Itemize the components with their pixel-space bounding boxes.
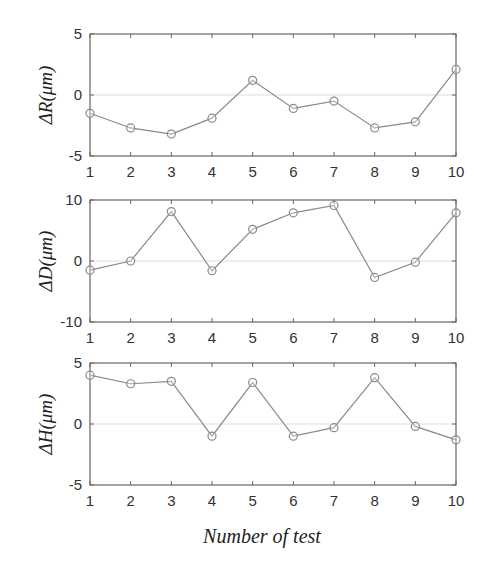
data-point-marker (208, 432, 216, 440)
data-point-marker (249, 76, 257, 84)
data-point-marker (371, 273, 379, 281)
x-tick-label: 6 (289, 492, 297, 509)
data-point-marker (86, 371, 94, 379)
x-tick-label: 3 (167, 163, 175, 180)
data-point-marker (127, 380, 135, 388)
y-tick-label: 0 (74, 415, 82, 432)
x-tick-label: 1 (86, 329, 94, 346)
data-point-marker (127, 124, 135, 132)
x-tick-label: 2 (126, 163, 134, 180)
x-tick-label: 4 (208, 329, 216, 346)
subplot-1: 1234567891050-5ΔR(μm) (35, 25, 464, 180)
data-line (90, 375, 456, 440)
data-point-marker (167, 130, 175, 138)
x-tick-label: 2 (126, 492, 134, 509)
x-tick-label: 9 (411, 163, 419, 180)
y-axis-label: ΔR(μm) (35, 66, 57, 126)
y-tick-label: 0 (74, 86, 82, 103)
x-tick-label: 10 (448, 492, 465, 509)
x-tick-label: 2 (126, 329, 134, 346)
x-tick-label: 8 (370, 329, 378, 346)
data-point-marker (289, 209, 297, 217)
x-tick-label: 10 (448, 329, 465, 346)
y-tick-label: -5 (69, 147, 82, 164)
data-point-marker (208, 114, 216, 122)
x-tick-label: 7 (330, 163, 338, 180)
x-tick-label: 5 (248, 329, 256, 346)
y-tick-label: -10 (60, 313, 82, 330)
x-tick-label: 10 (448, 163, 465, 180)
data-point-marker (411, 422, 419, 430)
figure: 1234567891050-5ΔR(μm)12345678910100-10ΔD… (0, 0, 496, 566)
x-tick-label: 7 (330, 492, 338, 509)
x-tick-label: 5 (248, 163, 256, 180)
x-tick-label: 7 (330, 329, 338, 346)
x-tick-label: 3 (167, 492, 175, 509)
subplot-2: 12345678910100-10ΔD(μm) (35, 191, 464, 346)
y-tick-label: 10 (65, 191, 82, 208)
x-tick-label: 6 (289, 329, 297, 346)
data-point-marker (452, 436, 460, 444)
data-point-marker (330, 97, 338, 105)
x-axis-title: Number of test (202, 525, 321, 548)
x-tick-label: 6 (289, 163, 297, 180)
x-tick-label: 1 (86, 163, 94, 180)
y-tick-label: 5 (74, 25, 82, 42)
y-axis-label: ΔH(μm) (35, 394, 57, 456)
data-point-marker (330, 201, 338, 209)
data-point-marker (86, 109, 94, 117)
x-tick-label: 4 (208, 163, 216, 180)
x-tick-label: 8 (370, 492, 378, 509)
x-tick-label: 4 (208, 492, 216, 509)
data-point-marker (371, 374, 379, 382)
data-point-marker (167, 377, 175, 385)
y-axis-label: ΔD(μm) (35, 231, 57, 293)
data-point-marker (371, 124, 379, 132)
data-line (90, 69, 456, 134)
data-point-marker (452, 65, 460, 73)
x-tick-label: 1 (86, 492, 94, 509)
data-point-marker (289, 432, 297, 440)
subplot-3: 1234567891050-5ΔH(μm) (35, 354, 464, 509)
data-point-marker (411, 258, 419, 266)
data-point-marker (411, 118, 419, 126)
y-tick-label: -5 (69, 476, 82, 493)
data-point-marker (86, 266, 94, 274)
y-tick-label: 0 (74, 252, 82, 269)
data-line (90, 205, 456, 277)
x-tick-label: 3 (167, 329, 175, 346)
data-point-marker (127, 257, 135, 265)
data-point-marker (249, 379, 257, 387)
y-tick-label: 5 (74, 354, 82, 371)
data-point-marker (330, 424, 338, 432)
data-point-marker (249, 225, 257, 233)
data-point-marker (167, 208, 175, 216)
x-tick-label: 9 (411, 492, 419, 509)
x-tick-label: 9 (411, 329, 419, 346)
data-point-marker (289, 104, 297, 112)
x-tick-label: 5 (248, 492, 256, 509)
data-point-marker (452, 209, 460, 217)
x-tick-label: 8 (370, 163, 378, 180)
data-point-marker (208, 267, 216, 275)
